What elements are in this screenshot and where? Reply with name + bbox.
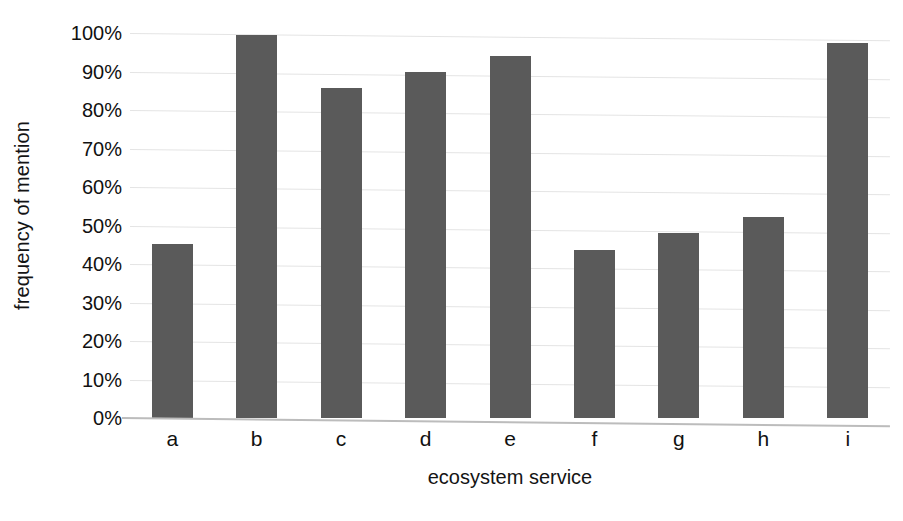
- x-axis-tick-label-f: f: [574, 425, 615, 453]
- y-axis-tick-label: 40%: [44, 254, 122, 274]
- bar-i: [827, 43, 868, 418]
- y-axis-tick-label: 60%: [44, 177, 122, 197]
- y-axis-title: frequency of mention: [0, 0, 44, 430]
- x-axis-tick-label-g: g: [658, 425, 699, 453]
- x-axis-tick-label-d: d: [405, 425, 446, 453]
- x-axis-tick-label-e: e: [490, 425, 531, 453]
- y-axis-tick-label: 100%: [44, 23, 122, 43]
- x-axis-tick-label-h: h: [743, 425, 784, 453]
- x-axis-tick-label-i: i: [827, 425, 868, 453]
- y-axis-tick-label: 30%: [44, 293, 122, 313]
- x-axis-tick-label-a: a: [152, 425, 193, 453]
- y-axis-tick-label: 80%: [44, 100, 122, 120]
- plot-area: [130, 33, 890, 418]
- bar-c: [321, 88, 362, 418]
- bar-a: [152, 244, 193, 418]
- bar-g: [658, 233, 699, 418]
- x-axis-tick-label-c: c: [321, 425, 362, 453]
- x-axis-tick-labels: abcdefghi: [130, 425, 890, 459]
- bar-series: [130, 33, 890, 418]
- y-axis-tick-label: 20%: [44, 331, 122, 351]
- y-axis-tick-label: 70%: [44, 139, 122, 159]
- bar-h: [743, 217, 784, 418]
- y-axis-tick-label: 50%: [44, 216, 122, 236]
- y-axis-title-text: frequency of mention: [11, 121, 34, 310]
- y-axis-tick-label: 90%: [44, 62, 122, 82]
- x-axis-tick-label-b: b: [236, 425, 277, 453]
- bar-d: [405, 72, 446, 418]
- y-axis-tick-label: 10%: [44, 370, 122, 390]
- bar-e: [490, 56, 531, 418]
- x-axis-title: ecosystem service: [130, 466, 890, 489]
- y-axis-tick-label: 0%: [44, 408, 122, 428]
- bar-f: [574, 250, 615, 418]
- bar-b: [236, 35, 277, 418]
- y-axis-tick-labels: 0%10%20%30%40%50%60%70%80%90%100%: [44, 0, 130, 430]
- bar-chart-figure: frequency of mention 0%10%20%30%40%50%60…: [0, 0, 903, 521]
